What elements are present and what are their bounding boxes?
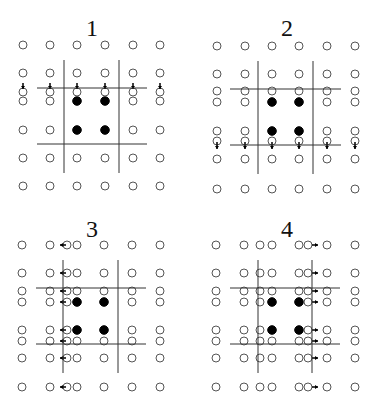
open-point bbox=[351, 354, 359, 362]
open-point bbox=[295, 383, 303, 391]
open-point bbox=[304, 241, 312, 249]
open-point bbox=[19, 97, 27, 105]
arrow-head-icon bbox=[270, 146, 274, 149]
arrow-head-icon bbox=[315, 243, 318, 247]
open-point bbox=[19, 41, 27, 49]
open-point bbox=[351, 185, 359, 193]
open-point bbox=[304, 354, 312, 362]
panel-label-4: 4 bbox=[281, 216, 293, 242]
open-point bbox=[73, 154, 81, 162]
panel-4 bbox=[212, 241, 359, 391]
open-point bbox=[323, 98, 331, 106]
open-point bbox=[241, 155, 249, 163]
open-point bbox=[46, 154, 54, 162]
open-point bbox=[128, 298, 136, 306]
open-point bbox=[46, 69, 54, 77]
open-point bbox=[46, 182, 54, 190]
filled-point bbox=[73, 326, 82, 335]
open-point bbox=[156, 69, 164, 77]
open-point bbox=[351, 326, 359, 334]
open-point bbox=[268, 185, 276, 193]
open-point bbox=[213, 98, 221, 106]
open-point bbox=[212, 298, 220, 306]
open-point bbox=[268, 383, 276, 391]
open-point bbox=[156, 241, 164, 249]
open-point bbox=[295, 241, 303, 249]
open-point bbox=[18, 269, 26, 277]
open-point bbox=[100, 241, 108, 249]
open-point bbox=[323, 354, 331, 362]
open-point bbox=[156, 182, 164, 190]
filled-point bbox=[268, 326, 277, 335]
open-point bbox=[156, 97, 164, 105]
open-point bbox=[295, 354, 303, 362]
open-point bbox=[240, 241, 248, 249]
arrow-head-icon bbox=[315, 289, 318, 293]
open-point bbox=[156, 354, 164, 362]
open-point bbox=[156, 88, 164, 96]
open-point bbox=[156, 326, 164, 334]
filled-point bbox=[101, 97, 110, 106]
arrow-head-icon bbox=[315, 271, 318, 275]
open-point bbox=[213, 155, 221, 163]
open-point bbox=[323, 185, 331, 193]
open-point bbox=[18, 241, 26, 249]
open-point bbox=[304, 269, 312, 277]
open-point bbox=[295, 269, 303, 277]
filled-point bbox=[101, 126, 110, 135]
open-point bbox=[304, 298, 312, 306]
open-point bbox=[212, 337, 220, 345]
open-point bbox=[212, 354, 220, 362]
open-point bbox=[295, 87, 303, 95]
open-point bbox=[101, 41, 109, 49]
filled-point bbox=[100, 326, 109, 335]
open-point bbox=[100, 269, 108, 277]
filled-point bbox=[100, 298, 109, 307]
panel-1 bbox=[19, 41, 164, 190]
open-point bbox=[73, 41, 81, 49]
open-point bbox=[351, 383, 359, 391]
open-point bbox=[19, 154, 27, 162]
open-point bbox=[240, 354, 248, 362]
open-point bbox=[129, 41, 137, 49]
open-point bbox=[46, 326, 54, 334]
open-point bbox=[351, 269, 359, 277]
open-point bbox=[128, 241, 136, 249]
filled-point bbox=[73, 126, 82, 135]
open-point bbox=[18, 337, 26, 345]
open-point bbox=[213, 87, 221, 95]
open-point bbox=[46, 354, 54, 362]
arrow-head-icon bbox=[60, 243, 63, 247]
open-point bbox=[241, 127, 249, 135]
open-point bbox=[213, 127, 221, 135]
open-point bbox=[304, 383, 312, 391]
open-point bbox=[268, 155, 276, 163]
open-point bbox=[212, 287, 220, 295]
arrow-head-icon bbox=[315, 339, 318, 343]
open-point bbox=[256, 269, 264, 277]
open-point bbox=[241, 87, 249, 95]
open-point bbox=[351, 127, 359, 135]
arrow-head-icon bbox=[315, 328, 318, 332]
open-point bbox=[323, 298, 331, 306]
open-point bbox=[268, 42, 276, 50]
filled-point bbox=[268, 127, 277, 136]
open-point bbox=[18, 354, 26, 362]
filled-point bbox=[295, 127, 304, 136]
open-point bbox=[212, 269, 220, 277]
open-point bbox=[351, 298, 359, 306]
open-point bbox=[323, 241, 331, 249]
open-point bbox=[304, 326, 312, 334]
open-point bbox=[129, 69, 137, 77]
open-point bbox=[129, 126, 137, 134]
open-point bbox=[351, 287, 359, 295]
open-point bbox=[241, 185, 249, 193]
open-point bbox=[19, 182, 27, 190]
panel-label-3: 3 bbox=[86, 216, 98, 242]
panel-2 bbox=[213, 42, 359, 193]
open-point bbox=[129, 97, 137, 105]
open-point bbox=[268, 241, 276, 249]
open-point bbox=[256, 383, 264, 391]
open-point bbox=[73, 383, 81, 391]
filled-point bbox=[268, 98, 277, 107]
